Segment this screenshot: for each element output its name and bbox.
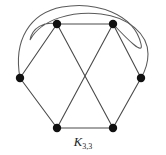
graph-diagram [0,0,166,155]
vertex-left [16,74,24,82]
vertex-right [137,74,145,82]
vertex-top-left [53,20,61,28]
vertex-bottom-left [53,124,61,132]
vertex-top-right [109,20,117,28]
figure-root: K3,3 [0,0,166,155]
vertex-bottom-right [109,124,117,132]
